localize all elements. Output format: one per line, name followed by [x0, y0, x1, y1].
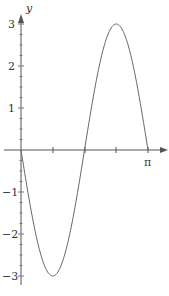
y-tick-label-m1: −1 [2, 186, 18, 199]
y-axis-label: y [25, 2, 33, 15]
y-axis-arrow-icon [18, 14, 24, 23]
x-tick-label-pi: π [144, 156, 151, 169]
y-tick-label-m3: −3 [2, 270, 18, 283]
y-tick-label-3: 3 [8, 18, 15, 31]
x-axis-arrow-icon [160, 147, 168, 153]
y-tick-label-m2: −2 [2, 228, 18, 241]
chart: y π 3 2 1 −1 −2 −3 [0, 0, 169, 296]
y-tick-label-1: 1 [8, 102, 15, 115]
y-tick-label-2: 2 [8, 60, 15, 73]
